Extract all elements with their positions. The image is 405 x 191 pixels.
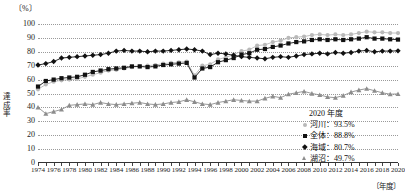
series-海域: [35, 46, 400, 67]
data-point: [75, 75, 79, 79]
data-point: [59, 107, 64, 112]
data-point: [130, 64, 134, 68]
data-point: [380, 48, 385, 53]
data-point: [35, 62, 40, 67]
data-point: [309, 51, 314, 56]
legend-item-river: 河川：93.5%: [300, 119, 400, 130]
data-point: [318, 37, 322, 41]
data-point: [106, 50, 111, 55]
data-point: [255, 43, 259, 47]
data-point: [67, 55, 72, 60]
data-point: [263, 47, 267, 51]
data-point: [224, 58, 228, 62]
x-axis-tick-label: 2004: [266, 167, 280, 174]
data-point: [317, 50, 322, 55]
data-point: [318, 32, 322, 36]
data-point: [161, 48, 166, 53]
data-point: [90, 53, 95, 58]
x-axis-tick-label: 1994: [188, 167, 202, 174]
legend: 2020 年度 河川：93.5% 全体：88.8% 海域：80.7% 湖沼：49…: [300, 108, 400, 164]
data-point: [59, 76, 63, 80]
x-axis-tick-label: 2020: [391, 167, 405, 174]
y-axis-tick-label: 30: [27, 117, 35, 125]
data-point: [302, 89, 307, 94]
x-axis-tick-label: 1992: [172, 167, 186, 174]
data-point: [208, 65, 212, 69]
data-point: [286, 41, 290, 45]
data-point: [98, 52, 103, 57]
data-point: [271, 45, 275, 49]
legend-item-sea: 海域：80.7%: [300, 142, 400, 153]
data-point: [121, 48, 126, 53]
y-axis-tick-label: 50: [27, 90, 35, 98]
legend-label-sea: 海域：80.7%: [310, 142, 355, 153]
data-point: [388, 37, 392, 41]
data-point: [83, 73, 87, 77]
data-point: [169, 62, 173, 66]
data-point: [207, 52, 212, 57]
y-axis-tick-label: 10: [27, 145, 35, 153]
data-point: [184, 97, 189, 102]
data-point: [176, 47, 181, 52]
x-axis-tick-label: 2000: [234, 167, 248, 174]
data-point: [192, 75, 196, 79]
data-point: [349, 32, 353, 36]
x-axis-tick-label: 1984: [109, 167, 123, 174]
data-point: [271, 40, 275, 44]
data-point: [270, 94, 275, 99]
data-point: [294, 53, 299, 58]
data-point: [254, 55, 259, 60]
legend-item-total: 全体：88.8%: [300, 130, 400, 141]
lake-marker-icon: [300, 153, 309, 164]
data-point: [200, 48, 205, 53]
data-point: [247, 55, 252, 60]
data-point: [44, 79, 48, 83]
data-point: [325, 38, 329, 42]
data-point: [185, 61, 189, 65]
data-point: [372, 36, 376, 40]
legend-label-total: 全体：88.8%: [310, 130, 355, 141]
data-point: [348, 50, 353, 55]
data-point: [365, 30, 369, 34]
data-point: [91, 70, 95, 74]
data-point: [82, 53, 87, 58]
data-point: [357, 31, 361, 35]
data-point: [364, 48, 369, 53]
x-axis-tick-label: 2014: [344, 167, 358, 174]
data-point: [286, 36, 290, 40]
y-axis-title-char-3: 率: [2, 110, 11, 119]
data-point: [106, 67, 110, 71]
legend-title: 2020 年度: [309, 108, 400, 119]
data-point: [388, 31, 392, 35]
y-axis-tick-label: 20: [27, 131, 35, 139]
y-axis-tick-label: 80: [27, 48, 35, 56]
data-point: [341, 38, 345, 42]
data-point: [372, 30, 376, 34]
data-point: [215, 50, 220, 55]
data-point: [223, 51, 228, 56]
data-point: [310, 33, 314, 37]
data-point: [52, 78, 56, 82]
data-point: [395, 48, 400, 53]
data-point: [270, 55, 275, 60]
legend-label-lake: 湖沼：49.7%: [310, 153, 355, 164]
data-point: [98, 100, 103, 105]
data-point: [67, 75, 71, 79]
data-point: [43, 61, 48, 66]
data-point: [364, 86, 369, 91]
data-point: [263, 43, 267, 47]
x-axis-tick-label: 1982: [94, 167, 108, 174]
data-point: [365, 35, 369, 39]
data-point: [129, 48, 134, 53]
data-point: [145, 49, 150, 54]
data-point: [357, 36, 361, 40]
x-axis-tick-label: 1996: [203, 167, 217, 174]
y-axis-unit-label: 〔%〕: [14, 2, 37, 13]
total-marker-icon: [300, 130, 309, 141]
y-axis-tick-label: 60: [27, 76, 35, 84]
data-point: [341, 33, 345, 37]
data-point: [310, 38, 314, 42]
sea-marker-icon: [300, 142, 309, 153]
x-axis-tick-label: 2018: [375, 167, 389, 174]
